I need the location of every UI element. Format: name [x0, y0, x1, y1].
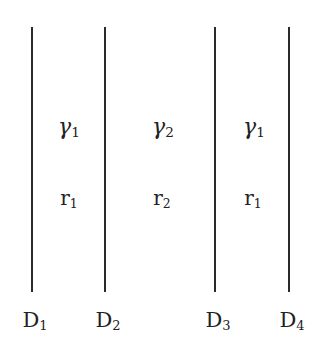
region-2-r-label: r2 [153, 186, 170, 211]
boundary-line-d1 [31, 27, 33, 292]
region-3-gamma-label: γ1 [243, 114, 265, 140]
boundary-label-d4: D4 [279, 308, 304, 333]
region-3-r-label: r1 [244, 186, 261, 211]
boundary-line-d2 [104, 27, 106, 292]
diagram-canvas: γ1 γ2 γ1 r1 r2 r1 D1 D2 D3 D4 [0, 0, 319, 343]
region-2-gamma-label: γ2 [152, 114, 174, 140]
boundary-line-d3 [214, 27, 216, 292]
boundary-line-d4 [288, 27, 290, 292]
boundary-label-d3: D3 [205, 308, 230, 333]
boundary-label-d2: D2 [95, 308, 120, 333]
boundary-label-d1: D1 [22, 308, 47, 333]
region-1-gamma-label: γ1 [58, 114, 80, 140]
region-1-r-label: r1 [60, 186, 77, 211]
